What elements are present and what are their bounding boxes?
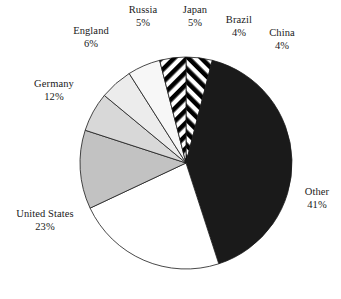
pie-slices-group [80, 57, 292, 269]
pie-label-united-states-name: United States [16, 208, 74, 219]
pie-label-germany-name: Germany [34, 78, 74, 89]
pie-label-china: China 4% [256, 27, 308, 52]
pie-label-united-states-value: 23% [2, 221, 88, 234]
pie-chart-figure: Russia 5% Japan 5% Brazil 4% China 4% En… [0, 0, 341, 299]
pie-label-china-value: 4% [256, 40, 308, 53]
pie-label-japan-name: Japan [183, 4, 207, 15]
pie-label-russia-value: 5% [116, 17, 170, 30]
pie-label-russia: Russia 5% [116, 4, 170, 29]
pie-label-other-name: Other [305, 186, 329, 197]
pie-label-germany-value: 12% [20, 91, 88, 104]
pie-label-russia-name: Russia [129, 4, 158, 15]
pie-label-england-name: England [73, 25, 109, 36]
pie-label-england: England 6% [60, 25, 122, 50]
pie-label-brazil-name: Brazil [226, 14, 252, 25]
pie-label-china-name: China [269, 27, 295, 38]
pie-label-germany: Germany 12% [20, 78, 88, 103]
pie-label-other: Other 41% [296, 186, 338, 211]
pie-label-united-states: United States 23% [2, 208, 88, 233]
pie-label-england-value: 6% [60, 38, 122, 51]
pie-label-other-value: 41% [296, 199, 338, 212]
